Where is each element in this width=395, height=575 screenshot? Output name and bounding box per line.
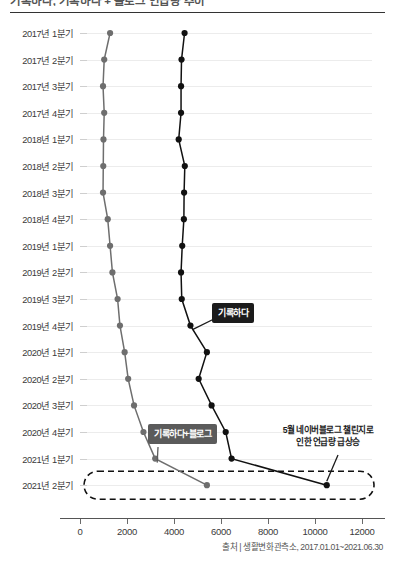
data-point[interactable] — [196, 376, 202, 382]
data-point[interactable] — [101, 57, 107, 63]
annot-record: 기록하다 — [212, 303, 254, 323]
data-point[interactable] — [181, 216, 187, 222]
data-point[interactable] — [223, 429, 229, 435]
chart-page: 기록하다, 기록하다 + 블로그 언급량 추이 2017년 1분기2017년 2… — [0, 0, 395, 575]
x-axis-line — [60, 518, 385, 519]
data-point[interactable] — [187, 323, 193, 329]
data-point[interactable] — [178, 110, 184, 116]
data-point[interactable] — [204, 482, 210, 488]
annot-spike: 5월 네이버블로그 챌린지로인한 언급량 급상승 — [264, 424, 392, 449]
data-point[interactable] — [100, 136, 106, 142]
data-point[interactable] — [115, 296, 121, 302]
data-point[interactable] — [228, 456, 234, 462]
data-point[interactable] — [105, 216, 111, 222]
data-point[interactable] — [100, 190, 106, 196]
data-point[interactable] — [140, 429, 146, 435]
data-point[interactable] — [131, 402, 137, 408]
data-point[interactable] — [107, 30, 113, 36]
data-point[interactable] — [101, 110, 107, 116]
data-point[interactable] — [178, 57, 184, 63]
data-point[interactable] — [125, 376, 131, 382]
data-point[interactable] — [176, 136, 182, 142]
last-quarter-highlight — [84, 471, 374, 499]
annot-spike-line2: 인한 언급량 급상승 — [264, 436, 392, 448]
annotation-leader-line — [157, 447, 158, 463]
data-point[interactable] — [209, 402, 215, 408]
series-line-record — [179, 33, 327, 485]
data-point[interactable] — [107, 243, 113, 249]
series-layer — [0, 0, 395, 575]
data-point[interactable] — [179, 243, 185, 249]
data-point[interactable] — [181, 190, 187, 196]
data-point[interactable] — [109, 269, 115, 275]
annotation-leader-line — [327, 455, 338, 481]
data-point[interactable] — [122, 349, 128, 355]
data-point[interactable] — [324, 482, 330, 488]
source-note: 출처 | 생활변화관측소, 2017.01.01~2021.06.30 — [222, 540, 383, 552]
annot-record-blog: 기록하다+블로그 — [148, 424, 217, 444]
data-point[interactable] — [100, 83, 106, 89]
annot-spike-line1: 5월 네이버블로그 챌린지로 — [264, 424, 392, 436]
data-point[interactable] — [179, 296, 185, 302]
data-point[interactable] — [117, 323, 123, 329]
data-point[interactable] — [100, 163, 106, 169]
data-point[interactable] — [181, 30, 187, 36]
series-line-record-blog — [103, 33, 207, 485]
data-point[interactable] — [178, 269, 184, 275]
data-point[interactable] — [178, 83, 184, 89]
data-point[interactable] — [182, 163, 188, 169]
data-point[interactable] — [204, 349, 210, 355]
